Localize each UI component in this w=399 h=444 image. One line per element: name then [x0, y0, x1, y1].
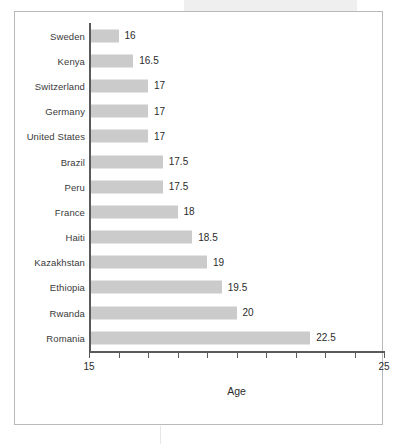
bar-value-label: 18.5 — [198, 232, 217, 243]
bar-track: 17.5 — [89, 180, 384, 193]
bar-track: 16 — [89, 29, 384, 42]
bar-track: 19 — [89, 256, 384, 269]
x-axis-tick — [207, 351, 208, 358]
category-label: Peru — [65, 181, 85, 192]
x-axis-tick — [384, 351, 385, 358]
bar — [89, 79, 148, 92]
x-axis-title: Age — [89, 385, 384, 397]
x-axis-tick — [355, 351, 356, 358]
x-axis-tick — [148, 351, 149, 358]
bar-value-label: 20 — [243, 307, 254, 318]
bar — [89, 54, 133, 67]
category-label: Brazil — [61, 156, 85, 167]
bar-track: 22.5 — [89, 331, 384, 344]
bar-row: United States17 — [15, 124, 384, 149]
x-axis-tick — [89, 351, 90, 358]
bar-value-label: 16.5 — [139, 55, 158, 66]
bar-value-label: 17 — [154, 131, 165, 142]
bar-value-label: 16 — [125, 30, 136, 41]
y-axis-line — [89, 23, 91, 351]
bar-row: Haiti18.5 — [15, 225, 384, 250]
bar-value-label: 19.5 — [228, 282, 247, 293]
bar-chart-plot: Sweden16Kenya16.5Switzerland17Germany17U… — [15, 12, 384, 426]
bar-row: Brazil17.5 — [15, 149, 384, 174]
bar — [89, 281, 222, 294]
bar — [89, 180, 163, 193]
x-axis-tick — [325, 351, 326, 358]
bar-track: 17 — [89, 130, 384, 143]
bar-row: Peru17.5 — [15, 174, 384, 199]
category-label: Germany — [45, 106, 85, 117]
bar-row: Kazakhstan19 — [15, 250, 384, 275]
bar-track: 17.5 — [89, 155, 384, 168]
x-axis-tick — [119, 351, 120, 358]
bar-row: Rwanda20 — [15, 300, 384, 325]
category-label: Switzerland — [35, 80, 85, 91]
category-label: Haiti — [65, 232, 85, 243]
bar-track: 20 — [89, 306, 384, 319]
bar-value-label: 17 — [154, 106, 165, 117]
bar — [89, 130, 148, 143]
bar — [89, 331, 310, 344]
bar-value-label: 22.5 — [316, 332, 335, 343]
bar-row: Romania22.5 — [15, 325, 384, 350]
bar — [89, 306, 237, 319]
bar-track: 18 — [89, 205, 384, 218]
bar-value-label: 17.5 — [169, 156, 188, 167]
x-axis-tick — [178, 351, 179, 358]
bar-track: 18.5 — [89, 231, 384, 244]
x-axis-tick-label: 15 — [83, 361, 94, 372]
category-label: Rwanda — [50, 307, 85, 318]
bar — [89, 29, 119, 42]
bar-value-label: 17 — [154, 80, 165, 91]
category-label: Ethiopia — [50, 282, 85, 293]
x-axis-tick-label: 25 — [378, 361, 389, 372]
bar-track: 19.5 — [89, 281, 384, 294]
page-gutter-line — [160, 426, 161, 444]
bar-track: 17 — [89, 105, 384, 118]
bar-row: Switzerland17 — [15, 73, 384, 98]
bar-value-label: 18 — [184, 206, 195, 217]
bar — [89, 231, 192, 244]
category-label: Romania — [46, 332, 85, 343]
x-axis-tick — [237, 351, 238, 358]
category-label: Kazakhstan — [34, 257, 85, 268]
category-label: France — [55, 206, 85, 217]
bar-rows-container: Sweden16Kenya16.5Switzerland17Germany17U… — [15, 23, 384, 350]
figure-frame: Sweden16Kenya16.5Switzerland17Germany17U… — [14, 11, 383, 425]
bar — [89, 105, 148, 118]
bar-row: Ethiopia19.5 — [15, 275, 384, 300]
x-axis-tick — [296, 351, 297, 358]
bar — [89, 155, 163, 168]
bar-track: 17 — [89, 79, 384, 92]
bar-row: Kenya16.5 — [15, 48, 384, 73]
category-label: Sweden — [50, 30, 85, 41]
bar — [89, 256, 207, 269]
bar-row: Sweden16 — [15, 23, 384, 48]
bar-row: Germany17 — [15, 99, 384, 124]
x-axis-tick — [266, 351, 267, 358]
bar — [89, 205, 178, 218]
bar-value-label: 19 — [213, 257, 224, 268]
bar-track: 16.5 — [89, 54, 384, 67]
bar-row: France18 — [15, 199, 384, 224]
bar-value-label: 17.5 — [169, 181, 188, 192]
category-label: United States — [27, 131, 85, 142]
category-label: Kenya — [58, 55, 85, 66]
